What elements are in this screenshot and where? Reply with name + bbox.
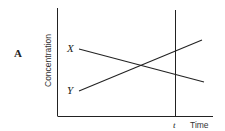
series-y-line <box>79 40 202 91</box>
x-axis-label: Time <box>190 120 209 130</box>
t-tick-label: t <box>173 120 176 130</box>
y-axis-label: Concentration <box>43 34 53 87</box>
concentration-time-diagram: A Concentration X Y t Time <box>0 0 225 131</box>
series-x-label: X <box>66 42 75 54</box>
series-y-label: Y <box>67 84 75 96</box>
panel-label: A <box>14 47 22 59</box>
